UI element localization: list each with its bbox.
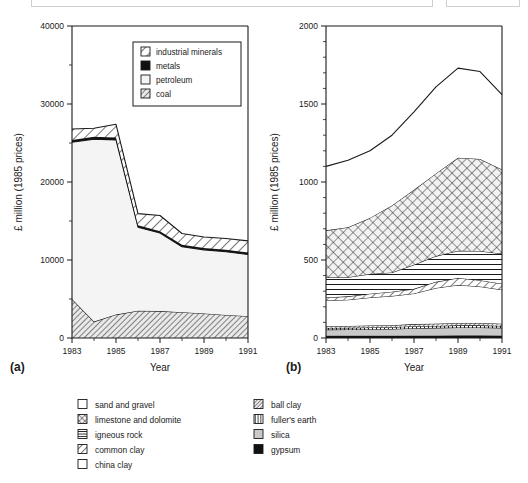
legend-item: coal [141,89,171,99]
legend-swatch [254,445,263,454]
legend-item: gypsum [254,445,300,455]
chart-panel-b: 050010001500200019831985198719891991Year… [264,14,528,384]
legend-item: limestone and dolomite [78,415,181,425]
y-axis-title: £ million (1985 prices) [13,133,24,231]
x-tick-label: 1983 [63,346,82,356]
x-tick-label: 1989 [449,346,468,356]
legend-label: coal [156,90,171,99]
legend-swatch [78,400,87,409]
x-tick-label: 1985 [361,346,380,356]
y-tick-label: 500 [304,255,318,265]
legend-item: metals [141,61,180,71]
legend-swatch [78,445,87,454]
legend-item: china clay [78,460,133,470]
x-tick-label: 1991 [493,346,512,356]
legend-swatch [141,89,150,98]
x-tick-label: 1989 [195,346,214,356]
legend-swatch [141,61,150,70]
legend-column-right: ball clayfuller's earthsilicagypsum [254,400,317,455]
x-tick-label: 1985 [107,346,126,356]
panel-label: (b) [286,360,301,374]
legend-column-left: sand and gravellimestone and dolomiteign… [78,400,181,470]
legend-panel-a: industrial mineralsmetalspetroleumcoal [133,42,241,106]
legend-label: industrial minerals [156,48,222,57]
y-tick-label: 1000 [299,177,318,187]
x-tick-label: 1987 [151,346,170,356]
y-tick-label: 0 [313,333,318,343]
y-tick-label: 30000 [40,99,64,109]
legend-label: metals [156,62,180,71]
y-tick-label: 10000 [40,255,64,265]
legend-label: sand and gravel [95,400,155,410]
x-tick-label: 1987 [405,346,424,356]
y-tick-label: 2000 [299,21,318,31]
legend-swatch [78,430,87,439]
legend-item: sand and gravel [78,400,155,410]
legend-label: common clay [95,445,145,455]
x-axis-title: Year [404,362,425,373]
x-axis-title: Year [150,362,171,373]
legend-item: ball clay [254,400,302,410]
y-tick-label: 40000 [40,21,64,31]
legend-swatch [78,415,87,424]
bottom-legend-svg: sand and gravellimestone and dolomiteign… [0,392,528,483]
legend-label: silica [271,430,290,440]
panel-label: (a) [10,360,25,374]
legend-swatch [78,460,87,469]
legend-label: china clay [95,460,133,470]
scan-artifact-box-right [446,0,520,7]
legend-item: common clay [78,445,145,455]
x-tick-label: 1991 [239,346,258,356]
legend-swatch [141,47,150,56]
scan-artifact-box-left [31,0,433,7]
legend-swatch [254,430,263,439]
legend-label: igneous rock [95,430,143,440]
legend-label: petroleum [156,76,193,85]
legend-item: petroleum [141,75,193,85]
legend-swatch [254,400,263,409]
y-axis-title: £ million (1985 prices) [269,133,280,231]
legend-label: fuller's earth [271,415,317,425]
x-tick-label: 1983 [317,346,336,356]
legend-label: limestone and dolomite [95,415,181,425]
legend-swatch [141,75,150,84]
chart-b-svg: 050010001500200019831985198719891991Year… [264,14,528,384]
legend-label: ball clay [271,400,302,410]
y-tick-label: 0 [59,333,64,343]
y-tick-label: 20000 [40,177,64,187]
legend-item: silica [254,430,290,440]
y-tick-label: 1500 [299,99,318,109]
bottom-legend: sand and gravellimestone and dolomiteign… [0,392,528,483]
legend-item: fuller's earth [254,415,317,425]
legend-item: igneous rock [78,430,143,440]
legend-label: gypsum [271,445,300,455]
legend-swatch [254,415,263,424]
chart-panel-a: 0100002000030000400001983198519871989199… [0,14,268,384]
chart-a-svg: 0100002000030000400001983198519871989199… [0,14,268,384]
